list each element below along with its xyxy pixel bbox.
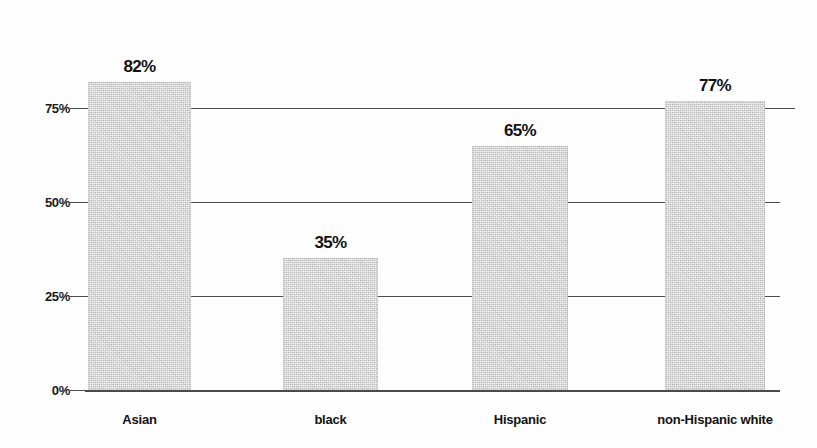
y-tick-label-75: 75% — [10, 101, 70, 116]
axis-baseline — [85, 390, 780, 392]
value-label-non-hispanic-white: 77% — [665, 76, 765, 96]
bar-hispanic[interactable] — [472, 146, 568, 390]
y-tick-label-25: 25% — [10, 289, 70, 304]
y-tick-mark-75 — [70, 108, 85, 109]
value-label-black: 35% — [283, 233, 378, 253]
plot-area: 82% 35% 65% 77% — [85, 14, 780, 390]
y-tick-label-0: 0% — [10, 383, 70, 398]
y-tick-label-50: 50% — [10, 195, 70, 210]
bar-black[interactable] — [283, 258, 378, 390]
y-tick-mark-75-right — [780, 108, 795, 109]
y-axis-labels: 0% 25% 50% 75% — [10, 14, 70, 390]
y-tick-mark-25 — [70, 296, 85, 297]
x-tick-label-black: black — [283, 412, 378, 427]
x-tick-label-hispanic: Hispanic — [472, 412, 568, 427]
x-tick-label-non-hispanic-white: non-Hispanic white — [655, 412, 775, 427]
bar-non-hispanic-white[interactable] — [665, 101, 765, 391]
bar-chart: 0% 25% 50% 75% 82% 35% 65% 77% Asian bla… — [0, 0, 817, 448]
value-label-hispanic: 65% — [472, 121, 568, 141]
y-tick-mark-50 — [70, 202, 85, 203]
x-axis-labels: Asian black Hispanic non-Hispanic white — [85, 14, 780, 64]
y-tick-mark-0 — [70, 390, 85, 391]
bar-asian[interactable] — [88, 82, 191, 390]
x-tick-label-asian: Asian — [88, 412, 191, 427]
